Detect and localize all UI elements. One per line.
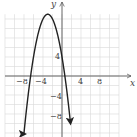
x-tick-label: −4 xyxy=(35,77,47,86)
y-tick-label: −4 xyxy=(50,92,62,101)
x-axis-label: x xyxy=(130,78,135,88)
y-tick-label: 4 xyxy=(55,52,60,61)
parabola-curve xyxy=(23,14,71,134)
y-axis-label: y xyxy=(50,0,57,9)
x-tick-label: 8 xyxy=(97,77,102,86)
x-tick-label: −8 xyxy=(16,77,28,86)
y-tick-label: −8 xyxy=(50,112,62,121)
parabola-graph: x y −8 −4 4 8 4 −4 −8 xyxy=(0,0,137,137)
x-tick-label: 4 xyxy=(78,77,83,86)
